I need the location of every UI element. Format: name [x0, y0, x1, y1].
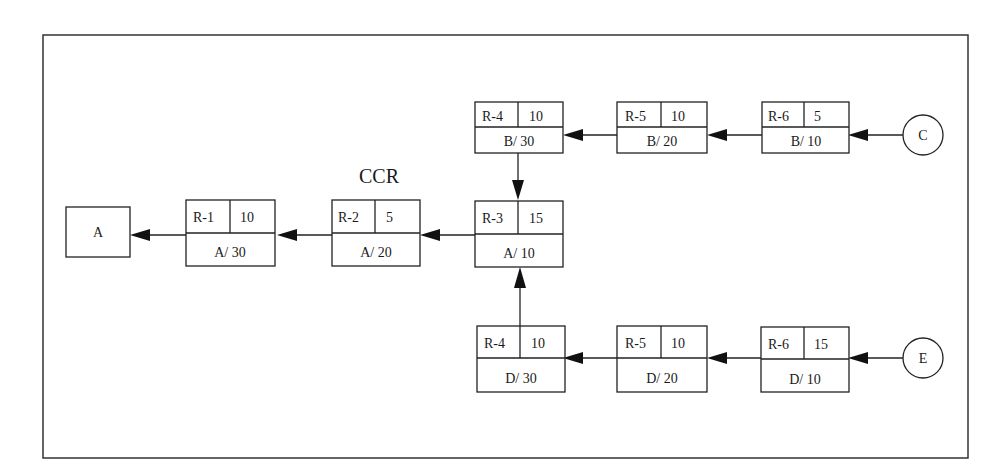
resource-time: 10 — [531, 336, 545, 351]
resource-time: 10 — [671, 336, 685, 351]
arrowhead-icon — [514, 267, 526, 288]
arrowhead-icon — [563, 352, 583, 364]
resource-box-r3: R-3 15 A/ 10 — [475, 201, 563, 267]
resource-box-b10: R-6 5 B/ 10 — [762, 102, 849, 153]
resource-id: R-2 — [338, 210, 359, 225]
resource-time: 15 — [529, 211, 543, 226]
source-node-c: C — [903, 115, 943, 155]
resource-id: R-5 — [625, 336, 646, 351]
resource-id: R-5 — [625, 109, 646, 124]
resource-id: R-1 — [193, 210, 214, 225]
arrowhead-icon — [563, 129, 583, 141]
part-operation: A/ 20 — [360, 245, 392, 260]
arrowhead-icon — [848, 129, 868, 141]
part-operation: D/ 30 — [505, 371, 537, 386]
ccr-label: CCR — [359, 165, 400, 187]
source-label: C — [918, 128, 927, 143]
part-operation: D/ 20 — [646, 371, 678, 386]
resource-time: 15 — [814, 337, 828, 352]
resource-box-r1: R-1 10 A/ 30 — [186, 200, 275, 266]
arrowhead-icon — [707, 352, 727, 364]
resource-time: 10 — [529, 109, 543, 124]
terminal-node-a: A — [66, 207, 130, 257]
part-operation: B/ 30 — [504, 134, 535, 149]
resource-id: R-3 — [482, 211, 503, 226]
resource-box-d30: R-4 10 D/ 30 — [477, 326, 565, 392]
terminal-label: A — [93, 225, 104, 240]
arrowhead-icon — [848, 352, 868, 364]
resource-id: R-4 — [482, 109, 503, 124]
resource-id: R-6 — [768, 337, 789, 352]
resource-box-b20: R-5 10 B/ 20 — [617, 102, 707, 153]
arrowhead-icon — [277, 229, 297, 241]
arrowhead-icon — [707, 129, 727, 141]
resource-box-b30: R-4 10 B/ 30 — [475, 102, 563, 153]
part-operation: A/ 10 — [503, 246, 535, 261]
resource-time: 5 — [814, 109, 821, 124]
resource-id: R-4 — [484, 336, 505, 351]
resource-id: R-6 — [768, 109, 789, 124]
source-label: E — [919, 351, 928, 366]
resource-time: 5 — [386, 210, 393, 225]
resource-time: 10 — [671, 109, 685, 124]
diagram-canvas: CCR A C E — [0, 0, 981, 472]
part-operation: D/ 10 — [789, 372, 821, 387]
resource-box-d20: R-5 10 D/ 20 — [617, 326, 707, 392]
resource-box-d10: R-6 15 D/ 10 — [761, 327, 849, 392]
part-operation: B/ 10 — [791, 134, 822, 149]
resource-box-r2-ccr: R-2 5 A/ 20 — [332, 200, 420, 266]
source-node-e: E — [903, 338, 943, 378]
arrowhead-icon — [130, 229, 150, 241]
resource-time: 10 — [240, 210, 254, 225]
part-operation: A/ 30 — [214, 245, 246, 260]
arrowhead-icon — [420, 229, 440, 241]
arrowhead-icon — [512, 180, 524, 200]
part-operation: B/ 20 — [647, 134, 678, 149]
